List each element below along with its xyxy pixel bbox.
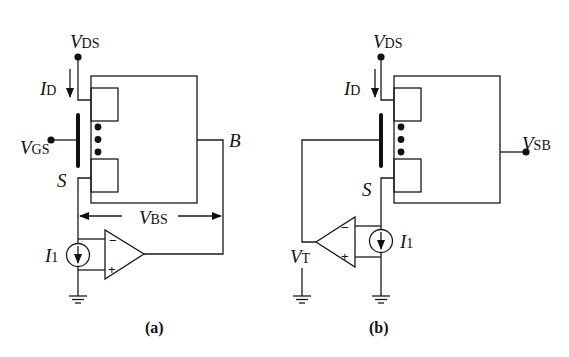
drain-diffusion-b [394, 88, 421, 121]
vbs-label-a: VBS [139, 207, 168, 228]
i1-label-b: I1 [399, 231, 413, 252]
vgs-label-a: VGS [20, 137, 50, 158]
source-lead-a [78, 178, 91, 296]
ground-icon [372, 296, 390, 303]
drain-lead-b [381, 57, 394, 100]
opamp-plus-sign-a: + [108, 262, 116, 277]
i1-label-a: I1 [44, 245, 58, 266]
body-region-b [394, 76, 500, 203]
circuit-figure: VDS ID VGS S B VBS − + [0, 0, 569, 357]
opamp-plus-sign-b: + [341, 249, 349, 264]
vds-label-a: VDS [70, 31, 100, 52]
caption-b: (b) [369, 319, 389, 337]
opamp-b [316, 217, 355, 267]
vds-label-b: VDS [373, 31, 403, 52]
ground-icon [69, 296, 87, 303]
bulk-lead-a [144, 140, 223, 254]
source-label-a: S [57, 170, 67, 191]
vt-label-b: VT [290, 246, 311, 267]
drain-diffusion-a [91, 88, 118, 121]
channel-dot-b [398, 136, 405, 143]
source-diffusion-b [394, 159, 421, 192]
source-diffusion-a [91, 159, 118, 192]
opamp-minus-sign-b: − [341, 220, 349, 235]
channel-dot-a [95, 149, 102, 156]
id-label-a: ID [39, 78, 56, 99]
panel-a: VDS ID VGS S B VBS − + [20, 31, 241, 337]
id-label-b: ID [343, 78, 360, 99]
vsb-label-b: VSB [522, 133, 551, 154]
drain-lead-a [78, 57, 91, 100]
ground-icon [293, 296, 311, 303]
channel-dot-a [95, 124, 102, 131]
bulk-label-a: B [229, 130, 241, 151]
panel-b: VDS ID VSB S − + VT [290, 31, 551, 337]
circuit-diagram: VDS ID VGS S B VBS − + [0, 0, 569, 357]
source-label-b: S [362, 179, 372, 200]
body-region-a [91, 76, 197, 203]
channel-dot-a [95, 136, 102, 143]
caption-a: (a) [145, 319, 164, 337]
opamp-minus-sign-a: − [109, 233, 117, 248]
channel-dot-b [398, 149, 405, 156]
channel-dot-b [398, 124, 405, 131]
